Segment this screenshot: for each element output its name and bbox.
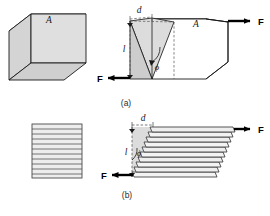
sheared-layer — [136, 162, 221, 167]
figure-root: A — [0, 0, 270, 216]
area-label-a-deformed: A — [192, 19, 199, 29]
shear-angle-label-phi-b: ϕ — [137, 148, 142, 158]
shear-angle-label-phi-a: ϕ — [155, 62, 160, 72]
sheared-layer — [132, 172, 217, 177]
shear-deformation-figure: A — [0, 0, 270, 216]
sheared-layer — [134, 167, 219, 172]
height-label-l-a: l — [123, 44, 126, 54]
force-label-bottom-a: F — [97, 73, 103, 84]
force-label-top-b: F — [258, 124, 264, 135]
force-label-bottom-b: F — [101, 170, 107, 181]
area-label-a-undeformed: A — [45, 15, 52, 25]
sheared-layer — [140, 152, 225, 157]
layer-stack-outline — [32, 124, 82, 178]
displacement-label-d-a: d — [137, 5, 142, 15]
sheared-layer — [144, 142, 229, 147]
caption-panel-a: (a) — [121, 98, 132, 108]
sheared-layer — [150, 127, 235, 132]
sheared-layer — [138, 157, 223, 162]
sheared-layer — [148, 132, 233, 137]
force-label-top-a: F — [258, 16, 264, 27]
sheared-layer — [146, 137, 231, 142]
caption-panel-b: (b) — [122, 190, 133, 200]
displacement-label-d-b: d — [141, 113, 146, 123]
panel-b-undeformed-stack — [32, 124, 82, 178]
height-label-l-b: l — [125, 147, 128, 157]
panel-a-undeformed-cube: A — [9, 14, 86, 80]
sheared-layer — [142, 147, 227, 152]
cube-front-face — [31, 14, 86, 63]
